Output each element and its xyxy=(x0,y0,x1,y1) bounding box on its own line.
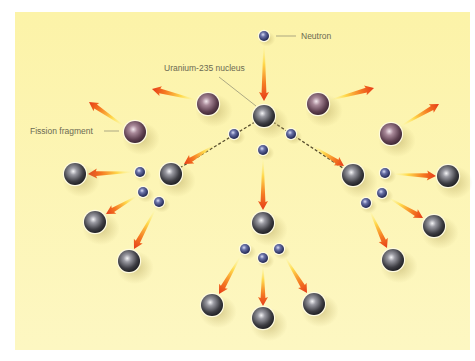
neutron xyxy=(361,198,371,208)
fission-fragment xyxy=(124,121,146,143)
nucleus xyxy=(118,250,140,272)
neutron xyxy=(138,187,148,197)
neutron xyxy=(258,145,268,155)
neutron xyxy=(286,129,296,139)
neutron xyxy=(229,129,239,139)
nucleus xyxy=(423,215,445,237)
neutron xyxy=(154,197,164,207)
neutron xyxy=(258,253,268,263)
neutron-label: Neutron xyxy=(301,31,332,41)
nucleus xyxy=(201,294,223,316)
uranium-nucleus-label: Uranium-235 nucleus xyxy=(164,63,245,73)
nucleus xyxy=(252,307,274,329)
fission-fragment xyxy=(380,123,402,145)
nucleus xyxy=(84,211,106,233)
incoming-neutron xyxy=(259,31,269,41)
nucleus xyxy=(382,249,404,271)
neutron xyxy=(377,188,387,198)
fission-fragment xyxy=(197,93,219,115)
fission-chain-diagram: Neutron Uranium-235 nucleus Fission frag… xyxy=(0,0,475,361)
nucleus xyxy=(252,212,274,234)
nucleus xyxy=(437,165,459,187)
fission-fragment xyxy=(307,93,329,115)
nucleus xyxy=(64,163,86,185)
nucleus xyxy=(160,163,182,185)
neutron xyxy=(240,244,250,254)
nucleus xyxy=(303,293,325,315)
fission-fragment-label: Fission fragment xyxy=(30,126,93,136)
uranium-235-nucleus xyxy=(253,105,275,127)
neutron xyxy=(274,244,284,254)
neutron xyxy=(135,167,145,177)
nucleus xyxy=(342,164,364,186)
neutron xyxy=(380,168,390,178)
